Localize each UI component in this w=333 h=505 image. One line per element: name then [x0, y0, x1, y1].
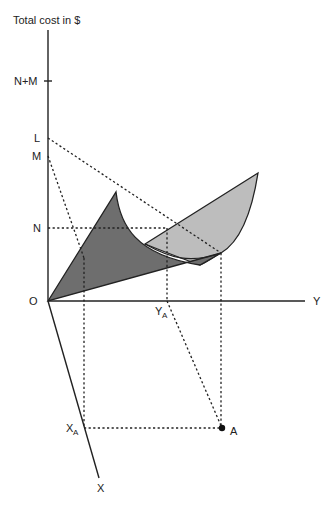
x-a-subscript: A — [73, 428, 79, 437]
tick-label-m: M — [32, 150, 41, 162]
point-a-marker — [219, 425, 225, 431]
point-a-label: A — [230, 425, 238, 437]
x-axis — [48, 301, 99, 478]
tick-label-l: L — [34, 132, 40, 144]
tick-label-n-plus-m: N+M — [14, 75, 38, 87]
cost-diagram: Total cost in $ N+M L M N O Y X Y A X A … — [0, 0, 333, 505]
light-cost-surface — [145, 173, 258, 265]
y-a-subscript: A — [162, 311, 168, 320]
y-a-to-a-guide — [167, 301, 222, 428]
vertical-axis-title: Total cost in $ — [13, 14, 80, 26]
tick-label-n: N — [33, 222, 41, 234]
m-guide-line — [48, 156, 84, 258]
origin-label: O — [29, 295, 38, 307]
y-axis-label: Y — [313, 295, 321, 307]
x-axis-label: X — [97, 482, 105, 494]
